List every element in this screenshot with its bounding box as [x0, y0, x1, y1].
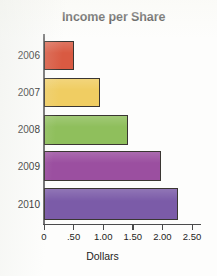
- y-axis-category-label: 2007: [4, 87, 40, 98]
- bar-2009: [44, 151, 161, 181]
- y-axis-category-label: 2006: [4, 50, 40, 61]
- x-axis-tick: [73, 225, 74, 230]
- bar-2006: [44, 41, 74, 70]
- bar-2010: [44, 188, 178, 220]
- x-axis-tick: [132, 225, 133, 230]
- income-per-share-bar-chart: Income per Share 0 .50 1.00 1.50 2.00 2.…: [0, 0, 217, 276]
- bar-2007: [44, 78, 100, 107]
- x-axis-tick-label: 0: [41, 231, 46, 242]
- x-axis-tick: [192, 225, 193, 230]
- x-axis-tick: [162, 225, 163, 230]
- x-axis-title: Dollars: [0, 250, 205, 262]
- x-axis-tick-label: 1.50: [124, 231, 143, 242]
- x-axis-tick-label: .50: [67, 231, 80, 242]
- x-axis-tick: [103, 225, 104, 230]
- y-axis-category-label: 2008: [4, 124, 40, 135]
- x-axis-tick-label: 2.00: [153, 231, 172, 242]
- x-axis-line: [43, 224, 201, 226]
- x-axis-tick: [44, 225, 45, 230]
- bar-2008: [44, 115, 128, 145]
- plot-area: 0 .50 1.00 1.50 2.00 2.50 2006 2007 2008…: [0, 0, 217, 276]
- x-axis-tick-label: 1.00: [94, 231, 113, 242]
- y-axis-category-label: 2010: [4, 199, 40, 210]
- x-axis-tick-label: 2.50: [183, 231, 202, 242]
- y-axis-category-label: 2009: [4, 161, 40, 172]
